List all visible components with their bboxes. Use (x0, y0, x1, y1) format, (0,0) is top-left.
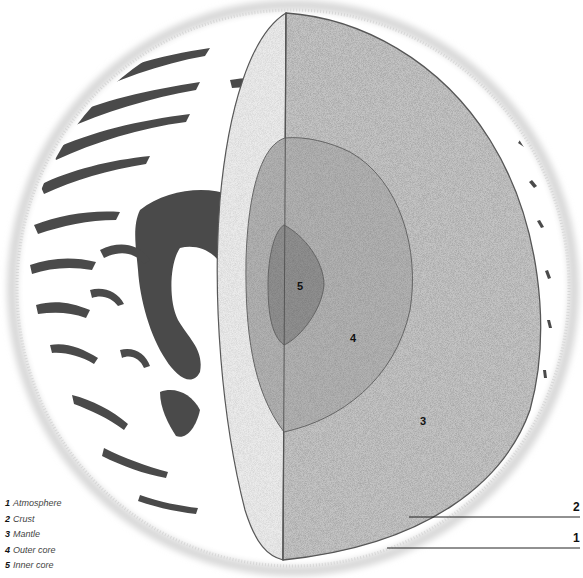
legend-item-atmosphere: 1Atmosphere (5, 496, 62, 512)
inner-core-label: 5 (297, 280, 303, 292)
outer-core-label: 4 (350, 332, 357, 344)
legend-number: 1 (5, 498, 10, 508)
atmosphere-callout-number: 1 (573, 531, 580, 545)
legend-text: Crust (13, 514, 35, 524)
legend-text: Atmosphere (13, 498, 62, 508)
legend-item-inner-core: 5Inner core (5, 558, 62, 574)
legend-item-crust: 2Crust (5, 512, 62, 528)
mantle-label: 3 (420, 415, 426, 427)
layer-legend: 1Atmosphere 2Crust 3Mantle 4Outer core 5… (5, 496, 62, 574)
legend-number: 5 (5, 560, 10, 570)
earth-cross-section-diagram: 5 4 3 2 1 (0, 0, 583, 578)
legend-number: 4 (5, 545, 10, 555)
legend-text: Outer core (13, 545, 56, 555)
legend-text: Inner core (13, 560, 54, 570)
legend-number: 2 (5, 514, 10, 524)
crust-callout-number: 2 (573, 500, 580, 514)
legend-item-mantle: 3Mantle (5, 527, 62, 543)
legend-item-outer-core: 4Outer core (5, 543, 62, 559)
legend-text: Mantle (13, 529, 40, 539)
legend-number: 3 (5, 529, 10, 539)
